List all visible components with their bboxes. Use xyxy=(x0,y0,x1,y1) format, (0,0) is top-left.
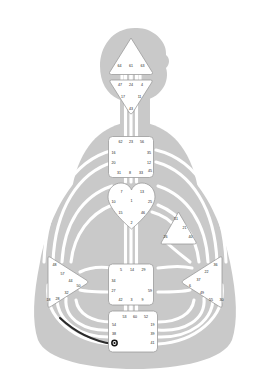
gate-9[interactable]: 9 xyxy=(142,298,144,302)
gate-62[interactable]: 62 xyxy=(119,140,123,144)
gate-33[interactable]: 33 xyxy=(139,171,143,175)
gate-23[interactable]: 23 xyxy=(129,140,133,144)
gate-32[interactable]: 32 xyxy=(65,291,69,295)
gate-20[interactable]: 20 xyxy=(112,161,116,165)
gate-19[interactable]: 19 xyxy=(151,323,155,327)
gate-17[interactable]: 17 xyxy=(121,95,125,99)
gate-47[interactable]: 47 xyxy=(118,83,122,87)
gate-6[interactable]: 6 xyxy=(189,284,191,288)
gate-49[interactable]: 49 xyxy=(200,291,204,295)
gate-29[interactable]: 29 xyxy=(142,268,146,272)
gate-40[interactable]: 40 xyxy=(189,235,193,239)
gate-46[interactable]: 46 xyxy=(141,211,145,215)
gate-2[interactable]: 2 xyxy=(131,221,133,225)
gate-37[interactable]: 37 xyxy=(197,278,201,282)
gate-3[interactable]: 3 xyxy=(131,298,133,302)
gate-34[interactable]: 34 xyxy=(112,279,116,283)
gate-48[interactable]: 48 xyxy=(53,263,57,267)
gate-28[interactable]: 28 xyxy=(56,297,60,301)
gate-38[interactable]: 38 xyxy=(112,332,116,336)
bodygraph-canvas: 6461634724417114362235616352012453183371… xyxy=(0,0,271,383)
gate-22[interactable]: 22 xyxy=(205,270,209,274)
gate-36[interactable]: 36 xyxy=(214,263,218,267)
gate-24[interactable]: 24 xyxy=(129,83,133,87)
gate-57[interactable]: 57 xyxy=(61,272,65,276)
gate-59[interactable]: 59 xyxy=(148,289,152,293)
gate-7[interactable]: 7 xyxy=(121,190,123,194)
gate-12[interactable]: 12 xyxy=(147,161,151,165)
gate-64[interactable]: 64 xyxy=(118,64,122,68)
gate-52[interactable]: 52 xyxy=(144,315,148,319)
gate-43[interactable]: 43 xyxy=(129,107,133,111)
gate-10[interactable]: 10 xyxy=(112,200,116,204)
gate-11[interactable]: 11 xyxy=(138,95,142,99)
gate-31[interactable]: 31 xyxy=(117,171,121,175)
gate-35[interactable]: 35 xyxy=(147,151,151,155)
gate-45[interactable]: 45 xyxy=(148,169,152,173)
gate-60[interactable]: 60 xyxy=(133,315,137,319)
gate-41[interactable]: 41 xyxy=(151,341,155,345)
gate-1[interactable]: 1 xyxy=(131,199,133,203)
gate-27[interactable]: 27 xyxy=(112,289,116,293)
gate-61[interactable]: 61 xyxy=(129,64,133,68)
gate-18[interactable]: 18 xyxy=(47,298,51,302)
gate-51[interactable]: 51 xyxy=(174,217,178,221)
bodygraph-figure: 6461634724417114362235616352012453183371… xyxy=(0,0,271,383)
gate-30[interactable]: 30 xyxy=(220,298,224,302)
gate-53[interactable]: 53 xyxy=(123,315,127,319)
gate-54[interactable]: 54 xyxy=(112,323,116,327)
gate-8[interactable]: 8 xyxy=(129,171,131,175)
gate-21[interactable]: 21 xyxy=(183,226,187,230)
gate-56[interactable]: 56 xyxy=(140,140,144,144)
gate-25[interactable]: 25 xyxy=(148,200,152,204)
gate-44[interactable]: 44 xyxy=(69,279,73,283)
gate-63[interactable]: 63 xyxy=(141,64,145,68)
gate-4[interactable]: 4 xyxy=(141,83,143,87)
gate-5[interactable]: 5 xyxy=(120,268,122,272)
gate-13[interactable]: 13 xyxy=(140,190,144,194)
gate-26[interactable]: 26 xyxy=(164,235,168,239)
gate-16[interactable]: 16 xyxy=(112,151,116,155)
gate-39[interactable]: 39 xyxy=(151,332,155,336)
gate-50[interactable]: 50 xyxy=(77,284,81,288)
gate-38-activation-dot[interactable] xyxy=(111,340,118,347)
gate-42[interactable]: 42 xyxy=(119,298,123,302)
gate-55[interactable]: 55 xyxy=(209,298,213,302)
gate-14[interactable]: 14 xyxy=(130,268,134,272)
gate-15[interactable]: 15 xyxy=(119,211,123,215)
